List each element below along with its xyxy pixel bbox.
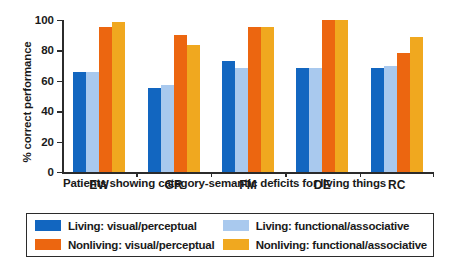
bar xyxy=(222,61,235,172)
y-tick-label: 100 xyxy=(35,14,54,26)
y-tick-mark xyxy=(57,20,62,21)
bar-group xyxy=(296,20,348,172)
bar xyxy=(73,72,86,172)
legend-swatch xyxy=(223,220,249,231)
bar xyxy=(335,20,348,172)
legend-label: Nonliving: functional/associative xyxy=(256,239,427,251)
y-axis-line xyxy=(62,20,64,172)
y-tick-mark xyxy=(57,142,62,143)
bar xyxy=(148,88,161,172)
bar xyxy=(161,85,174,172)
y-tick-label: 60 xyxy=(41,75,54,87)
bar xyxy=(235,68,248,172)
bar xyxy=(309,68,322,172)
plot-area: 020406080100 EWGRFMDERC xyxy=(62,20,434,172)
legend-item[interactable]: Living: functional/associative xyxy=(223,220,427,232)
y-tick-label: 40 xyxy=(41,105,54,117)
bar xyxy=(371,68,384,172)
bar xyxy=(322,20,335,172)
legend-label: Living: functional/associative xyxy=(256,220,410,232)
bar xyxy=(261,27,274,172)
legend-item[interactable]: Nonliving: functional/associative xyxy=(223,239,427,251)
bar-group-bars xyxy=(222,20,274,172)
bar-group xyxy=(73,20,125,172)
bar xyxy=(248,27,261,172)
y-tick-mark xyxy=(57,50,62,51)
bar-chart-figure: % correct performance 020406080100 EWGRF… xyxy=(0,0,449,264)
y-tick-mark xyxy=(57,172,62,173)
legend-swatch xyxy=(35,220,61,231)
y-tick-mark xyxy=(57,81,62,82)
bar xyxy=(99,27,112,172)
bar xyxy=(410,37,423,172)
bar-group xyxy=(222,20,274,172)
bar-group xyxy=(371,20,423,172)
y-axis-title: % correct performance xyxy=(21,17,33,187)
bar xyxy=(112,22,125,172)
bar-group-bars xyxy=(73,20,125,172)
chart-legend: Living: visual/perceptualLiving: functio… xyxy=(26,213,434,257)
legend-item[interactable]: Nonliving: visual/perceptual xyxy=(35,239,219,251)
x-axis-line xyxy=(62,172,434,174)
bar xyxy=(397,53,410,172)
legend-swatch xyxy=(35,239,61,250)
y-tick-label: 80 xyxy=(41,44,54,56)
bar xyxy=(86,72,99,172)
bar xyxy=(384,66,397,172)
bar-group xyxy=(148,20,200,172)
legend-label: Living: visual/perceptual xyxy=(68,220,197,232)
y-tick-mark xyxy=(57,111,62,112)
legend-swatch xyxy=(223,239,249,250)
bar xyxy=(296,68,309,172)
bar-group-bars xyxy=(371,20,423,172)
bar xyxy=(187,45,200,172)
bar-group-bars xyxy=(148,20,200,172)
bar xyxy=(174,35,187,172)
x-axis-title: Patients showing category-semantic defic… xyxy=(0,177,449,189)
y-tick-label: 20 xyxy=(41,136,54,148)
bar-group-bars xyxy=(296,20,348,172)
legend-item[interactable]: Living: visual/perceptual xyxy=(35,220,219,232)
legend-label: Nonliving: visual/perceptual xyxy=(68,239,214,251)
